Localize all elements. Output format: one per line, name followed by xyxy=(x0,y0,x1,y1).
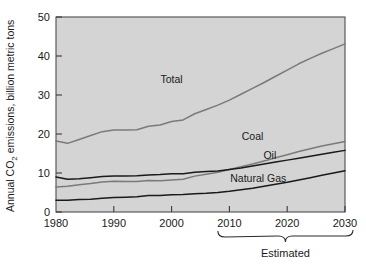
x-tick-label: 1990 xyxy=(102,217,126,229)
y-axis-title-text: Annual CO2 emissions, billion metric ton… xyxy=(4,20,19,212)
x-tick-label: 2030 xyxy=(333,217,357,229)
y-tick-label: 10 xyxy=(38,167,50,179)
y-tick-label: 30 xyxy=(38,89,50,101)
co2-emissions-chart-figure: 01020304050 198019902000201020202030 Tot… xyxy=(0,0,366,269)
series-label-oil: Oil xyxy=(263,149,276,161)
x-tick-label: 2020 xyxy=(275,217,299,229)
y-axis-title: Annual CO2 emissions, billion metric ton… xyxy=(4,20,19,212)
chart-canvas: 01020304050 198019902000201020202030 Tot… xyxy=(0,0,366,269)
estimated-brace-icon xyxy=(218,230,353,242)
y-axis-title-suffix: emissions, billion metric tons xyxy=(4,20,16,157)
y-tick-label: 40 xyxy=(38,50,50,62)
x-tick-label: 2010 xyxy=(217,217,241,229)
estimated-brace-group: Estimated xyxy=(218,230,353,259)
x-tick-label: 1980 xyxy=(44,217,68,229)
y-axis-title-prefix: Annual CO xyxy=(4,161,16,212)
x-tick-label: 2000 xyxy=(159,217,183,229)
series-label-coal: Coal xyxy=(242,130,264,142)
y-tick-label: 50 xyxy=(38,11,50,23)
series-label-natural-gas: Natural Gas xyxy=(230,172,286,184)
y-tick-label: 20 xyxy=(38,128,50,140)
series-label-total: Total xyxy=(161,73,183,85)
estimated-annotation-label: Estimated xyxy=(261,247,310,259)
